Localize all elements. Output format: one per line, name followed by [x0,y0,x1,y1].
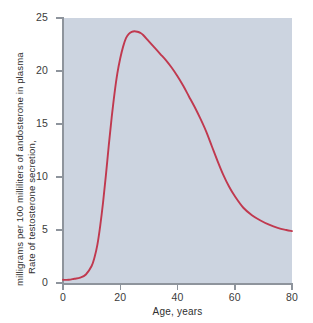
chart-figure: 0510152025 020406080 Rate of testosteron… [0,0,313,323]
x-tick-label-0: 0 [43,291,83,303]
x-axis-label: Age, years [63,306,292,317]
x-tick-40 [177,284,179,290]
x-tick-20 [120,284,122,290]
y-tick-20 [56,70,62,72]
x-tick-label-20: 20 [100,291,140,303]
y-axis-label-line-2: milligrams per 100 milliliters of andost… [14,52,25,286]
x-tick-0 [62,284,64,290]
y-tick-25 [56,17,62,19]
y-tick-10 [56,176,62,178]
x-tick-label-80: 80 [272,291,312,303]
x-tick-80 [291,284,293,290]
y-tick-5 [56,229,62,231]
data-curve [63,18,292,283]
x-tick-label-60: 60 [215,291,255,303]
x-tick-60 [234,284,236,290]
testosterone-secretion-line [63,31,292,280]
y-axis-label: Rate of testosterone secretion, milligra… [0,0,46,300]
y-tick-15 [56,123,62,125]
y-axis-label-line-1: Rate of testosterone secretion, [26,140,37,274]
y-tick-0 [56,282,62,284]
x-tick-label-40: 40 [158,291,198,303]
